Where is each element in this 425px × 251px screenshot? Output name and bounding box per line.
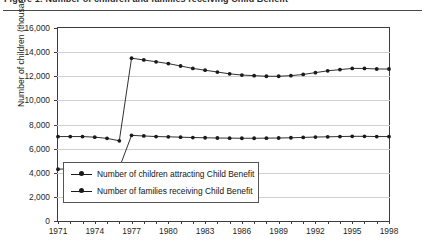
y-axis-tick: [54, 197, 57, 198]
x-axis-label: 1992: [298, 227, 332, 235]
legend-label-children: Number of children attracting Child Bene…: [97, 169, 254, 179]
x-axis-tick: [144, 221, 145, 224]
figure-title: Figure 1: Number of children and familie…: [4, 0, 288, 4]
data-point: [289, 136, 293, 140]
y-axis-tick: [54, 149, 57, 150]
data-point: [350, 134, 354, 138]
x-axis-label: 1977: [115, 227, 149, 235]
y-axis-label: 6,000: [2, 145, 50, 153]
data-point: [326, 135, 330, 139]
x-axis-tick: [205, 221, 206, 224]
data-point: [338, 68, 342, 72]
x-axis-tick: [254, 221, 255, 224]
data-point: [265, 74, 269, 78]
x-axis-tick: [242, 221, 243, 224]
data-point: [387, 135, 391, 139]
x-axis-tick: [181, 221, 182, 224]
x-axis-label: 1989: [262, 227, 296, 235]
data-point: [375, 135, 379, 139]
data-point: [56, 135, 60, 139]
data-point: [93, 135, 97, 139]
y-axis-label: 16,000: [2, 24, 50, 32]
data-point: [301, 136, 305, 140]
legend-item-children: Number of children attracting Child Bene…: [71, 167, 254, 181]
x-axis-tick: [389, 221, 390, 224]
y-axis-label: 12,000: [2, 72, 50, 80]
data-point: [252, 74, 256, 78]
data-point: [350, 67, 354, 71]
y-axis-label: 14,000: [2, 48, 50, 56]
y-axis-tick: [54, 28, 57, 29]
x-axis-label: 1971: [41, 227, 75, 235]
y-axis-tick: [54, 100, 57, 101]
data-point: [166, 62, 170, 66]
y-axis-label: 4,000: [2, 169, 50, 177]
x-axis-tick: [70, 221, 71, 224]
data-point: [166, 135, 170, 139]
data-point: [142, 58, 146, 62]
y-axis-tick: [54, 76, 57, 77]
data-point: [314, 135, 318, 139]
x-axis-tick: [83, 221, 84, 224]
data-point: [117, 139, 121, 143]
x-axis-label: 1995: [335, 227, 369, 235]
x-axis-tick: [132, 221, 133, 224]
x-axis-tick: [95, 221, 96, 224]
data-point: [215, 70, 219, 74]
data-point: [363, 134, 367, 138]
data-point: [154, 60, 158, 64]
x-axis-tick: [230, 221, 231, 224]
data-point: [228, 72, 232, 76]
data-point: [252, 136, 256, 140]
data-point: [179, 135, 183, 139]
y-axis-tick: [54, 173, 57, 174]
x-axis-label: 1986: [225, 227, 259, 235]
y-axis-label: 8,000: [2, 121, 50, 129]
data-point: [314, 71, 318, 75]
figure-title-strip: Figure 1: Number of children and familie…: [0, 0, 425, 9]
x-axis-tick: [328, 221, 329, 224]
y-axis-tick: [54, 125, 57, 126]
x-axis-tick: [266, 221, 267, 224]
data-point: [203, 68, 207, 72]
x-axis-tick: [168, 221, 169, 224]
data-point: [265, 136, 269, 140]
data-point: [289, 74, 293, 78]
data-point: [130, 133, 134, 137]
y-axis-label: 0: [2, 217, 50, 225]
x-axis-tick: [156, 221, 157, 224]
x-axis-tick: [58, 221, 59, 224]
data-point: [191, 136, 195, 140]
data-point: [130, 56, 134, 60]
data-point: [228, 136, 232, 140]
x-axis-tick: [217, 221, 218, 224]
x-axis-tick: [352, 221, 353, 224]
line-dot-marker-icon: [71, 170, 92, 179]
x-axis-label: 1980: [151, 227, 185, 235]
data-point: [326, 69, 330, 73]
data-point: [56, 167, 60, 171]
data-point: [277, 136, 281, 140]
data-point: [154, 135, 158, 139]
x-axis-label: 1998: [372, 227, 406, 235]
data-point: [81, 135, 85, 139]
title-divider: [3, 10, 422, 11]
data-point: [191, 67, 195, 71]
data-point: [277, 74, 281, 78]
data-point: [105, 136, 109, 140]
x-axis-tick: [107, 221, 108, 224]
data-point: [375, 67, 379, 71]
x-axis-tick: [377, 221, 378, 224]
y-axis-tick: [54, 52, 57, 53]
data-point: [240, 73, 244, 77]
data-point: [142, 134, 146, 138]
data-point: [203, 136, 207, 140]
data-point: [240, 136, 244, 140]
x-axis-label: 1983: [188, 227, 222, 235]
data-point: [215, 136, 219, 140]
y-axis-tick: [54, 221, 57, 222]
x-axis-tick: [303, 221, 304, 224]
data-point: [179, 64, 183, 68]
x-axis-tick: [119, 221, 120, 224]
data-point: [301, 73, 305, 77]
